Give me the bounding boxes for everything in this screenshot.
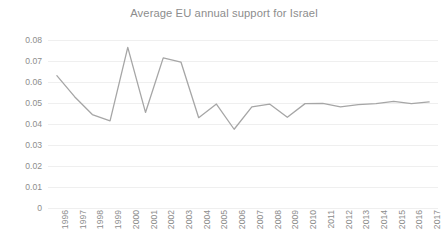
x-tick-label: 1997 <box>79 210 88 229</box>
x-tick-label: 2015 <box>398 210 407 229</box>
x-tick-label: 2000 <box>132 210 141 229</box>
x-tick-label: 2008 <box>274 210 283 229</box>
gridline <box>48 208 438 209</box>
x-tick-label: 2002 <box>167 210 176 229</box>
y-tick-label: 0.08 <box>0 36 42 45</box>
y-tick-label: 0.02 <box>0 162 42 171</box>
x-tick-label: 2012 <box>345 210 354 229</box>
line-series <box>48 40 438 208</box>
x-tick-label: 2017 <box>433 210 442 229</box>
x-tick-label: 2005 <box>220 210 229 229</box>
y-tick-label: 0.07 <box>0 57 42 66</box>
y-tick-label: 0.03 <box>0 141 42 150</box>
x-tick-label: 2004 <box>203 210 212 229</box>
chart-title: Average EU annual support for Israel <box>0 7 448 19</box>
x-tick-label: 2009 <box>291 210 300 229</box>
chart-container: Average EU annual support for Israel 00.… <box>0 0 448 251</box>
plot-area <box>48 40 438 208</box>
x-tick-label: 1999 <box>114 210 123 229</box>
x-tick-label: 1996 <box>61 210 70 229</box>
x-tick-label: 2016 <box>415 210 424 229</box>
x-tick-label: 1998 <box>96 210 105 229</box>
x-tick-label: 2003 <box>185 210 194 229</box>
y-tick-label: 0 <box>0 204 42 213</box>
y-axis: 00.010.020.030.040.050.060.070.08 <box>0 40 42 208</box>
y-tick-label: 0.01 <box>0 183 42 192</box>
x-tick-label: 2013 <box>362 210 371 229</box>
x-axis: 1996199719981999200020012002200320042005… <box>48 210 438 250</box>
x-tick-label: 2007 <box>256 210 265 229</box>
y-tick-label: 0.04 <box>0 120 42 129</box>
x-tick-label: 2001 <box>150 210 159 229</box>
x-tick-label: 2011 <box>327 210 336 228</box>
y-tick-label: 0.06 <box>0 78 42 87</box>
x-tick-label: 2010 <box>309 210 318 229</box>
x-tick-label: 2014 <box>380 210 389 229</box>
x-tick-label: 2006 <box>238 210 247 229</box>
series-polyline <box>57 47 429 129</box>
y-tick-label: 0.05 <box>0 99 42 108</box>
